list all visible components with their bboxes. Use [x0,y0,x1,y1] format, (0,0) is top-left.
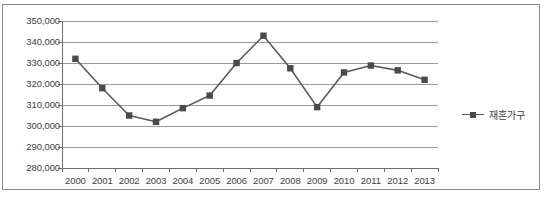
x-axis-tick-label: 2000 [65,175,86,186]
x-axis-tick-label: 2008 [280,175,301,186]
x-axis-tick-label: 2011 [361,175,381,186]
chart-legend: 재혼가구 [462,107,525,122]
x-axis-tick-label: 2007 [253,175,274,186]
legend-marker-icon [462,110,484,119]
x-axis-tick-label: 2003 [146,175,167,186]
x-axis-tick-label: 2012 [387,175,408,186]
x-axis-tick-label: 2001 [92,175,113,186]
legend-label: 재혼가구 [489,107,525,122]
chart-container: 350,000340,000330,000320,000310,000300,0… [0,0,546,216]
x-axis-tick-label: 2010 [334,175,355,186]
x-axis-tick-label: 2005 [199,175,220,186]
x-axis-tick-label: 2009 [307,175,328,186]
x-axis-tick-label: 2002 [119,175,140,186]
x-axis-tick-label: 2006 [226,175,247,186]
x-axis-tick-label: 2013 [414,175,435,186]
x-axis-tick-label: 2004 [172,175,193,186]
